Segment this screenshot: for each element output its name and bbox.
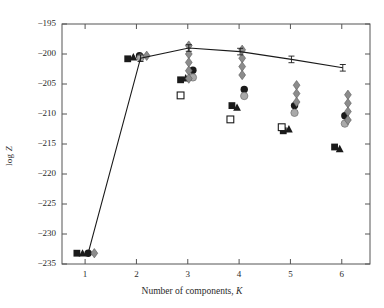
data-point-grey-diamond bbox=[239, 70, 246, 79]
y-tick-label: −230 bbox=[14, 228, 56, 238]
plot-frame bbox=[62, 24, 370, 264]
y-tick-label: −235 bbox=[14, 258, 56, 268]
x-tick-label: 3 bbox=[178, 269, 198, 279]
x-axis-label: Number of components, K bbox=[0, 286, 384, 296]
x-tick-label: 2 bbox=[126, 269, 146, 279]
x-tick-label: 5 bbox=[280, 269, 300, 279]
data-point-filled-square bbox=[124, 55, 131, 62]
x-axis-label-prefix: Number of components, bbox=[142, 286, 236, 296]
y-axis-label-symbol: Z bbox=[4, 146, 14, 151]
x-tick-label: 4 bbox=[229, 269, 249, 279]
y-tick-label: −225 bbox=[14, 198, 56, 208]
figure-container: log Z Number of components, K −195−200−2… bbox=[0, 0, 384, 308]
data-point-open-square bbox=[177, 92, 184, 99]
y-tick-label: −205 bbox=[14, 78, 56, 88]
y-tick-label: −195 bbox=[14, 18, 56, 28]
y-axis-label-prefix: log bbox=[4, 151, 14, 166]
data-point-grey-circle bbox=[241, 92, 248, 99]
data-point-grey-diamond bbox=[143, 51, 150, 60]
evidence-trend-line bbox=[88, 48, 343, 253]
y-tick-label: −220 bbox=[14, 168, 56, 178]
y-tick-label: −210 bbox=[14, 108, 56, 118]
data-point-filled-square bbox=[229, 102, 236, 109]
x-axis-label-symbol: K bbox=[236, 286, 242, 296]
y-tick-label: −215 bbox=[14, 138, 56, 148]
x-tick-label: 6 bbox=[332, 269, 352, 279]
data-point-open-square bbox=[227, 116, 234, 123]
scatter-plot-canvas bbox=[0, 0, 384, 308]
data-point-grey-diamond bbox=[91, 249, 98, 258]
data-point-filled-square bbox=[331, 144, 338, 151]
data-point-grey-circle bbox=[291, 109, 298, 116]
data-point-open-square bbox=[278, 124, 285, 131]
y-tick-label: −200 bbox=[14, 48, 56, 58]
x-tick-label: 1 bbox=[75, 269, 95, 279]
